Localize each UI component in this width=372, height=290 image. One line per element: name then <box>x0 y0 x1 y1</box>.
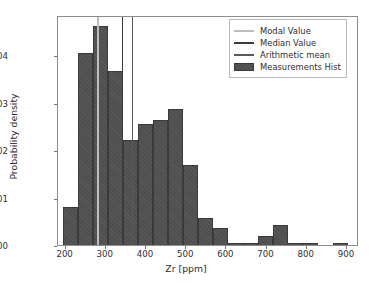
legend-line-swatch <box>234 30 254 32</box>
x-tick-label: 300 <box>97 249 113 259</box>
x-tick-label: 200 <box>56 249 72 259</box>
x-tick-mark <box>346 246 347 249</box>
chart-legend: Modal ValueMedian ValueArithmetic meanMe… <box>229 19 347 78</box>
x-tick-label: 700 <box>257 249 273 259</box>
x-tick-mark <box>145 246 146 249</box>
legend-label: Measurements Hist <box>260 62 341 72</box>
legend-entry: Modal Value <box>234 25 341 36</box>
y-tick-label: 0.000 <box>0 241 8 251</box>
legend-label: Modal Value <box>260 26 311 36</box>
y-tick-label: 0.001 <box>0 194 8 204</box>
y-axis-label: Probability density <box>8 92 19 182</box>
y-tick-mark <box>54 151 57 152</box>
legend-entry: Arithmetic mean <box>234 49 341 60</box>
x-tick-mark <box>306 246 307 249</box>
histogram-figure: 0.0000.0010.0020.0030.004 20030040050060… <box>0 0 372 290</box>
x-tick-label: 900 <box>338 249 354 259</box>
legend-line-swatch <box>234 42 254 44</box>
x-tick-mark <box>225 246 226 249</box>
legend-entry: Measurements Hist <box>234 61 341 72</box>
vline-arithmetic-mean <box>132 17 133 245</box>
x-tick-mark <box>266 246 267 249</box>
x-tick-label: 600 <box>217 249 233 259</box>
y-tick-mark <box>54 246 57 247</box>
legend-line-swatch <box>234 54 254 56</box>
vline-median-value <box>122 17 123 245</box>
x-tick-mark <box>105 246 106 249</box>
legend-entry: Median Value <box>234 37 341 48</box>
x-tick-mark <box>65 246 66 249</box>
x-axis-label: Zr [ppm] <box>0 263 372 274</box>
x-tick-label: 800 <box>298 249 314 259</box>
y-tick-mark <box>54 56 57 57</box>
legend-label: Median Value <box>260 38 316 48</box>
vline-modal-value <box>97 17 99 245</box>
legend-label: Arithmetic mean <box>260 50 330 60</box>
legend-patch-swatch <box>234 63 254 71</box>
x-tick-mark <box>185 246 186 249</box>
y-tick-label: 0.004 <box>0 51 8 61</box>
y-tick-mark <box>54 104 57 105</box>
x-tick-label: 400 <box>137 249 153 259</box>
x-tick-label: 500 <box>177 249 193 259</box>
y-tick-mark <box>54 199 57 200</box>
